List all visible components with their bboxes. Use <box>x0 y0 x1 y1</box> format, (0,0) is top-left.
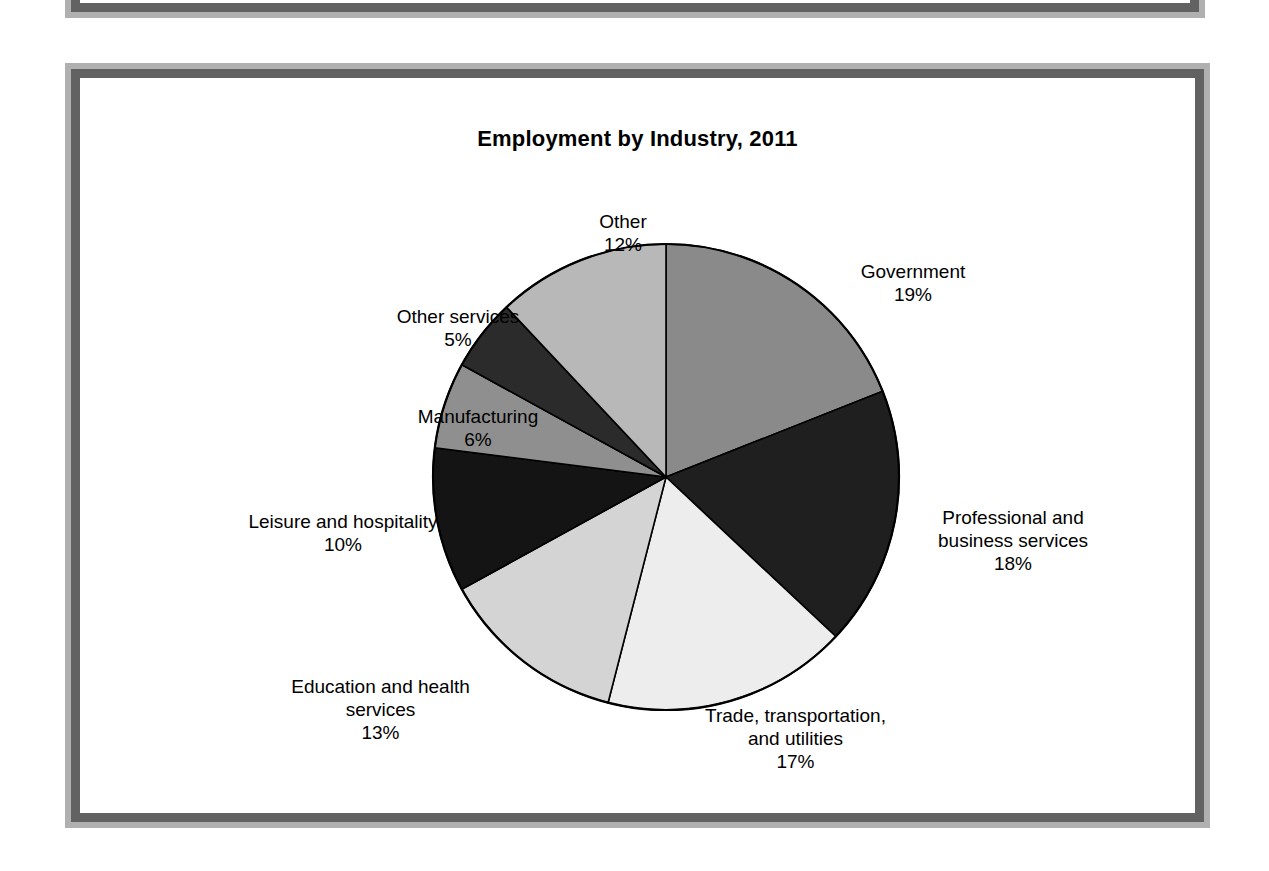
pie-label-manufacturing: Manufacturing 6% <box>378 405 578 451</box>
figure-canvas: Employment by Industry, 2011 Other 12% G… <box>80 78 1195 813</box>
figure-frame-inner-border: Employment by Industry, 2011 Other 12% G… <box>71 69 1204 822</box>
pie-label-leisure-and-hospitality: Leisure and hospitality 10% <box>208 510 478 556</box>
previous-figure-frame-inner <box>71 0 1199 12</box>
pie-label-education-and-health-services: Education and health services 13% <box>248 675 513 744</box>
figure-frame: Employment by Industry, 2011 Other 12% G… <box>65 63 1210 828</box>
pie-chart: Other 12% Government 19% Professional an… <box>80 78 1195 813</box>
previous-figure-frame-fragment <box>65 0 1205 18</box>
pie-label-other: Other 12% <box>548 210 698 256</box>
pie-label-trade-transportation-and-utilities: Trade, transportation, and utilities 17% <box>663 704 928 773</box>
pie-label-other-services: Other services 5% <box>358 305 558 351</box>
pie-label-professional-and-business-services: Professional and business services 18% <box>888 506 1138 575</box>
pie-label-government: Government 19% <box>798 260 1028 306</box>
